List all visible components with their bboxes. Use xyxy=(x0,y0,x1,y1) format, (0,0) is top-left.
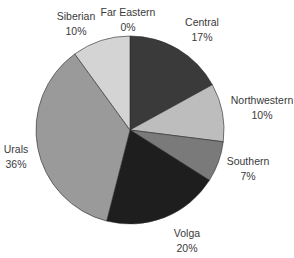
label-name: Northwestern xyxy=(231,93,293,108)
label-pct: 0% xyxy=(101,20,156,35)
pie-chart xyxy=(0,0,294,258)
label-southern: Southern7% xyxy=(227,154,270,184)
label-northwestern: Northwestern10% xyxy=(231,93,293,123)
label-urals: Urals36% xyxy=(4,142,29,172)
label-siberian: Siberian10% xyxy=(57,9,96,39)
label-name: Southern xyxy=(227,154,270,169)
label-pct: 20% xyxy=(174,241,200,256)
label-pct: 10% xyxy=(57,24,96,39)
label-name: Central xyxy=(185,15,219,30)
label-name: Volga xyxy=(174,226,200,241)
label-volga: Volga20% xyxy=(174,226,200,256)
label-far-eastern: Far Eastern0% xyxy=(101,5,156,35)
label-central: Central17% xyxy=(185,15,219,45)
label-name: Siberian xyxy=(57,9,96,24)
label-pct: 10% xyxy=(231,108,293,123)
label-name: Far Eastern xyxy=(101,5,156,20)
label-name: Urals xyxy=(4,142,29,157)
label-pct: 17% xyxy=(185,30,219,45)
label-pct: 7% xyxy=(227,169,270,184)
label-pct: 36% xyxy=(4,157,29,172)
